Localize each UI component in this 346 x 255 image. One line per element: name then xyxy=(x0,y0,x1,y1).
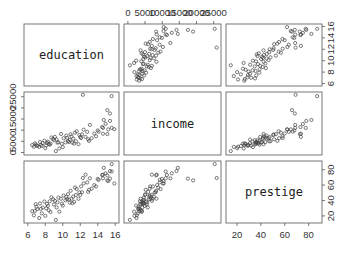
data-point xyxy=(165,173,168,176)
scatterplot-matrix: educationincomeprestige 6810121416204060… xyxy=(0,0,346,255)
tick-label: 60 xyxy=(279,229,290,240)
data-point xyxy=(273,138,276,141)
panel-prestige-vs-prestige: prestige xyxy=(226,161,322,223)
data-point xyxy=(249,138,252,141)
data-point xyxy=(164,177,167,180)
data-point xyxy=(161,45,164,48)
data-point xyxy=(158,36,161,39)
data-point xyxy=(151,53,154,56)
data-point xyxy=(108,119,111,122)
data-point xyxy=(82,182,85,185)
data-point xyxy=(94,135,97,138)
tick-label: 60 xyxy=(325,180,336,191)
data-point xyxy=(62,137,65,140)
data-point xyxy=(316,27,319,30)
panel-frame xyxy=(226,92,322,155)
data-point xyxy=(151,37,154,40)
tick-label: 20 xyxy=(232,229,243,240)
data-point xyxy=(102,166,105,169)
tick-label: 6 xyxy=(325,81,336,86)
data-point xyxy=(305,119,308,122)
data-point xyxy=(80,185,83,188)
tick-label: 25000 xyxy=(200,7,226,18)
data-point xyxy=(44,147,47,150)
data-point xyxy=(192,30,195,33)
data-point xyxy=(77,143,80,146)
data-point xyxy=(232,145,235,148)
tick-label: 10 xyxy=(57,229,68,240)
data-point xyxy=(175,170,178,173)
data-point xyxy=(106,109,109,112)
panel-education-vs-prestige xyxy=(226,24,322,86)
data-point xyxy=(294,33,297,36)
data-point xyxy=(169,41,172,44)
data-point xyxy=(299,126,302,129)
data-point xyxy=(101,177,104,180)
diagonal-label-prestige: prestige xyxy=(245,185,303,199)
data-point xyxy=(250,76,253,79)
tick-label: 80 xyxy=(325,164,336,175)
data-point xyxy=(192,179,195,182)
tick-label: 12 xyxy=(75,229,86,240)
panel-frame xyxy=(124,161,221,223)
data-point xyxy=(133,71,136,74)
tick-label: 5000 xyxy=(7,131,18,152)
data-point xyxy=(170,31,173,34)
data-point xyxy=(158,43,161,46)
data-point xyxy=(273,43,276,46)
data-point xyxy=(236,78,239,81)
prestige-y-axis-right: 20406080 xyxy=(322,164,336,221)
data-point xyxy=(304,126,307,129)
data-point xyxy=(43,200,46,203)
tick-label: 0 xyxy=(125,7,130,18)
data-point xyxy=(294,41,297,44)
data-point xyxy=(229,150,232,153)
data-point xyxy=(107,180,110,183)
prestige-x-axis-bottom: 20406080 xyxy=(232,223,314,240)
data-point xyxy=(55,206,58,209)
data-point xyxy=(77,197,80,200)
data-point xyxy=(255,74,258,77)
data-point xyxy=(253,65,256,68)
data-point xyxy=(128,218,131,221)
data-point xyxy=(84,135,87,138)
data-point xyxy=(82,128,85,131)
data-point xyxy=(264,141,267,144)
data-point xyxy=(232,75,235,78)
data-point xyxy=(281,47,284,50)
data-point xyxy=(213,27,216,30)
data-point xyxy=(156,39,159,42)
data-point xyxy=(113,182,116,185)
data-point xyxy=(301,122,304,125)
data-point xyxy=(128,64,131,67)
data-point xyxy=(58,210,61,213)
data-point xyxy=(262,49,265,52)
data-point xyxy=(84,173,87,176)
data-point xyxy=(106,133,109,136)
data-point xyxy=(175,28,178,31)
data-point xyxy=(86,130,89,133)
data-point xyxy=(88,177,91,180)
education-y-axis-right: 6810121416 xyxy=(322,21,336,86)
tick-label: 16 xyxy=(325,21,336,32)
income-y-axis-left: 050001500025000 xyxy=(7,84,24,156)
panel-education-vs-education: education xyxy=(24,24,119,86)
panel-prestige-vs-income xyxy=(124,161,221,223)
data-point xyxy=(251,59,254,62)
data-point xyxy=(38,202,41,205)
tick-label: 14 xyxy=(92,229,103,240)
data-point xyxy=(286,26,289,29)
data-point xyxy=(170,172,173,175)
data-point xyxy=(48,200,51,203)
data-point xyxy=(102,118,105,121)
tick-label: 8 xyxy=(43,229,48,240)
data-point xyxy=(276,139,279,142)
diagonal-label-education: education xyxy=(39,48,104,62)
data-point xyxy=(176,32,179,35)
panel-frame xyxy=(226,24,322,86)
data-point xyxy=(215,46,218,49)
data-point xyxy=(44,214,47,217)
tick-label: 25000 xyxy=(7,84,18,110)
tick-label: 40 xyxy=(325,195,336,206)
data-point xyxy=(64,141,67,144)
